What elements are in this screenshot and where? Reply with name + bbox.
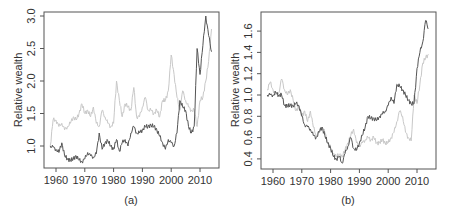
y-tick-label: 1.0 xyxy=(242,87,254,102)
x-tick-label: 2000 xyxy=(376,175,400,187)
x-tick-label: 1980 xyxy=(318,175,342,187)
y-axis-b: 0.40.60.81.01.21.41.6 xyxy=(242,23,261,166)
x-tick-label: 1990 xyxy=(130,174,154,186)
series-lines-b xyxy=(267,21,428,164)
x-tick-label: 2000 xyxy=(159,174,183,186)
x-tick-label: 1960 xyxy=(261,175,285,187)
y-axis-label-b: Relative wealth xyxy=(229,53,241,128)
y-tick-label: 2.5 xyxy=(25,41,37,56)
panel-a: 1.01.52.02.53.0 196019701980199020002010… xyxy=(12,8,219,206)
y-tick-label: 0.4 xyxy=(242,151,254,166)
y-tick-label: 2.0 xyxy=(25,73,37,88)
y-tick-label: 1.0 xyxy=(25,138,37,153)
y-tick-label: 1.2 xyxy=(242,66,254,81)
y-tick-label: 3.0 xyxy=(25,8,37,23)
y-axis-label-a: Relative wealth xyxy=(12,53,24,128)
x-axis-a: 196019701980199020002010 xyxy=(44,168,212,186)
chart-canvas: 1.01.52.02.53.0 196019701980199020002010… xyxy=(0,0,449,215)
x-tick-label: 1970 xyxy=(290,175,314,187)
series-lines-a xyxy=(50,16,211,163)
y-tick-label: 0.8 xyxy=(242,109,254,124)
x-tick-label: 2010 xyxy=(188,174,212,186)
panel-caption-b: (b) xyxy=(341,194,354,206)
light-series-line xyxy=(50,29,211,146)
y-tick-label: 0.6 xyxy=(242,130,254,145)
panel-b: 0.40.60.81.01.21.41.6 196019701980199020… xyxy=(229,12,436,206)
x-tick-label: 1990 xyxy=(347,175,371,187)
y-axis-a: 1.01.52.02.53.0 xyxy=(25,8,44,153)
dark-series-line xyxy=(50,16,211,163)
y-tick-label: 1.6 xyxy=(242,23,254,38)
plot-frame-a xyxy=(44,12,219,168)
x-tick-label: 1960 xyxy=(44,174,68,186)
x-axis-b: 196019701980199020002010 xyxy=(261,169,429,187)
x-tick-label: 1980 xyxy=(101,174,125,186)
y-tick-label: 1.4 xyxy=(242,45,254,60)
y-tick-label: 1.5 xyxy=(25,106,37,121)
panel-caption-a: (a) xyxy=(124,194,137,206)
x-tick-label: 2010 xyxy=(405,175,429,187)
x-tick-label: 1970 xyxy=(73,174,97,186)
